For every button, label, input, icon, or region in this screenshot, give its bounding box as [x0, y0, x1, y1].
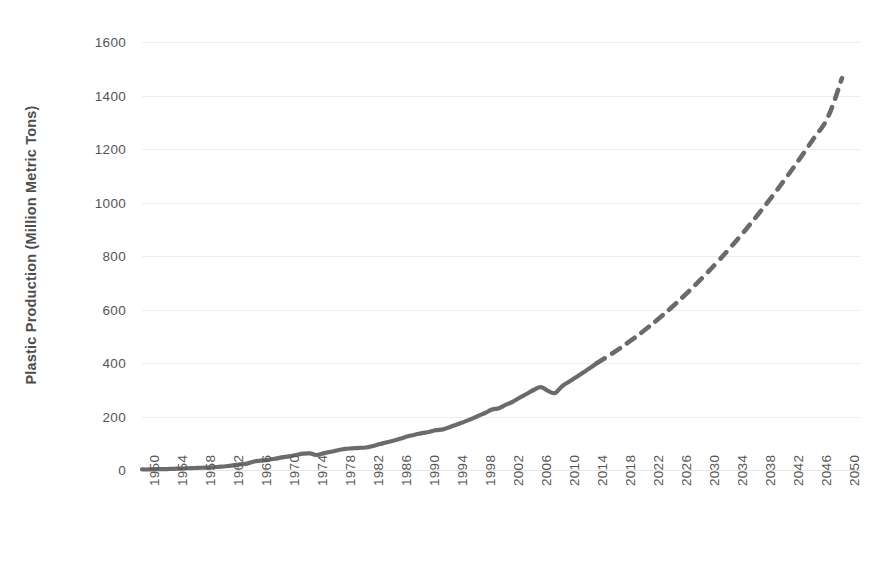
- projected-series-line: [597, 78, 842, 363]
- x-tick-label-1950: 1950: [147, 455, 162, 486]
- x-tick-label-2050: 2050: [847, 455, 862, 486]
- x-tick-label-2034: 2034: [735, 455, 750, 486]
- x-tick-label-1966: 1966: [259, 455, 274, 486]
- x-tick-label-1990: 1990: [427, 455, 442, 486]
- x-tick-label-2002: 2002: [511, 455, 526, 486]
- x-tick-label-2006: 2006: [539, 455, 554, 486]
- x-tick-label-2018: 2018: [623, 455, 638, 486]
- x-tick-label-1994: 1994: [455, 455, 470, 486]
- x-tick-label-2022: 2022: [651, 455, 666, 486]
- x-tick-label-2030: 2030: [707, 455, 722, 486]
- x-tick-label-1978: 1978: [343, 455, 358, 486]
- x-tick-label-1962: 1962: [231, 455, 246, 486]
- historical-series-line: [142, 363, 597, 469]
- x-tick-label-2042: 2042: [791, 455, 806, 486]
- x-tick-label-1958: 1958: [203, 455, 218, 486]
- x-tick-label-1974: 1974: [315, 455, 330, 486]
- x-tick-label-1986: 1986: [399, 455, 414, 486]
- plastic-production-line-chart: Plastic Production (Million Metric Tons)…: [0, 0, 876, 565]
- x-tick-label-1970: 1970: [287, 455, 302, 486]
- x-tick-label-2010: 2010: [567, 455, 582, 486]
- x-tick-label-1998: 1998: [483, 455, 498, 486]
- x-tick-label-2026: 2026: [679, 455, 694, 486]
- x-axis-tick-labels: 1950195419581962196619701974197819821986…: [0, 478, 876, 565]
- x-tick-label-2014: 2014: [595, 455, 610, 486]
- x-tick-label-1954: 1954: [175, 455, 190, 486]
- x-tick-label-2046: 2046: [819, 455, 834, 486]
- x-tick-label-1982: 1982: [371, 455, 386, 486]
- x-tick-label-2038: 2038: [763, 455, 778, 486]
